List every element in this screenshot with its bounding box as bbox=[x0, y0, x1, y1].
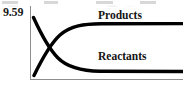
reactants-curve bbox=[34, 18, 184, 72]
products-label: Products bbox=[98, 9, 142, 22]
curves-canvas bbox=[0, 0, 183, 89]
reactants-label: Reactants bbox=[98, 50, 147, 63]
equilibrium-figure: 9.59 Products Reactants bbox=[0, 0, 183, 89]
